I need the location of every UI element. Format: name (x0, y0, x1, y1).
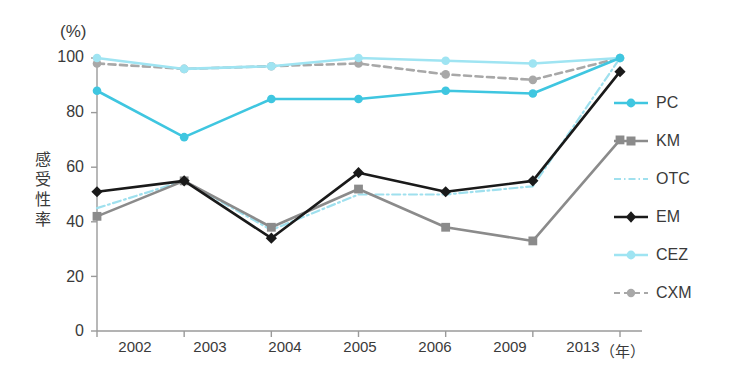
data-point (267, 62, 276, 71)
legend-swatch-em (614, 210, 648, 224)
data-point (441, 223, 450, 232)
data-point (267, 223, 276, 232)
legend-label-km: KM (656, 132, 680, 150)
series-line-otc (97, 58, 620, 230)
legend-icon-cez (614, 248, 648, 262)
series-em (91, 66, 625, 244)
legend-item-em[interactable]: EM (614, 198, 732, 236)
data-point (93, 212, 102, 221)
legend-label-em: EM (656, 208, 680, 226)
series-km (93, 136, 625, 246)
legend-label-cez: CEZ (656, 246, 688, 264)
legend-item-otc[interactable]: OTC (614, 160, 732, 198)
data-point (441, 56, 450, 65)
data-point (528, 237, 537, 246)
data-point (91, 186, 102, 197)
legend-swatch-pc (614, 96, 648, 110)
legend-swatch-cxm (614, 286, 648, 300)
data-point (354, 95, 363, 104)
legend-swatch-km (614, 134, 648, 148)
data-point (267, 95, 276, 104)
data-point (440, 186, 451, 197)
chart-legend: PC KM OTC (614, 84, 732, 312)
legend-swatch-cez (614, 248, 648, 262)
data-point (180, 133, 189, 142)
legend-item-cez[interactable]: CEZ (614, 236, 732, 274)
legend-label-pc: PC (656, 94, 678, 112)
data-point (529, 59, 538, 68)
data-point (616, 54, 625, 63)
legend-icon-em (614, 210, 648, 224)
chart-series-layer (91, 54, 625, 246)
data-point (441, 86, 450, 95)
legend-label-cxm: CXM (656, 284, 692, 302)
data-point (529, 76, 538, 85)
legend-item-km[interactable]: KM (614, 122, 732, 160)
series-otc (97, 58, 620, 230)
data-point (354, 185, 363, 194)
data-point (529, 89, 538, 98)
legend-icon-otc (614, 172, 648, 186)
data-point (354, 54, 363, 63)
legend-icon-km (614, 134, 648, 148)
legend-label-otc: OTC (656, 170, 690, 188)
chart-axes (91, 58, 642, 337)
legend-item-cxm[interactable]: CXM (614, 274, 732, 312)
legend-icon-pc (614, 96, 648, 110)
data-point (180, 65, 189, 74)
data-point (93, 54, 102, 63)
legend-swatch-otc (614, 172, 648, 186)
legend-item-pc[interactable]: PC (614, 84, 732, 122)
data-point (93, 86, 102, 95)
chart-root: (%) 感 受 性 率 100 80 60 40 20 0 2002 2003 … (0, 0, 735, 382)
data-point (441, 70, 450, 79)
legend-icon-cxm (614, 286, 648, 300)
